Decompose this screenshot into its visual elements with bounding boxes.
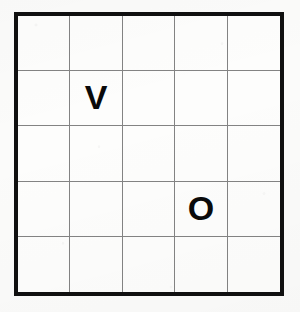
grid-cell-r1c4[interactable] bbox=[175, 16, 227, 71]
grid-cell-r3c4[interactable] bbox=[175, 126, 227, 181]
grid-cell-r3c3[interactable] bbox=[123, 126, 175, 181]
grid-cell-r4c5[interactable] bbox=[228, 182, 280, 237]
grid-cell-r3c2[interactable] bbox=[70, 126, 122, 181]
grid-cell-r1c5[interactable] bbox=[228, 16, 280, 71]
grid-cell-r4c3[interactable] bbox=[123, 182, 175, 237]
grid-cell-r2c1[interactable] bbox=[18, 71, 70, 126]
grid-cell-r5c5[interactable] bbox=[228, 237, 280, 292]
letter-grid[interactable]: VO bbox=[14, 12, 284, 296]
puzzle-canvas: VO bbox=[0, 0, 300, 312]
grid-cell-r5c4[interactable] bbox=[175, 237, 227, 292]
grid-cell-r5c1[interactable] bbox=[18, 237, 70, 292]
cell-letter: V bbox=[85, 80, 108, 114]
grid-cell-r3c1[interactable] bbox=[18, 126, 70, 181]
grid-cell-r1c2[interactable] bbox=[70, 16, 122, 71]
cell-letter: O bbox=[188, 191, 214, 225]
grid-cell-r5c2[interactable] bbox=[70, 237, 122, 292]
grid-cell-r4c4[interactable]: O bbox=[175, 182, 227, 237]
grid-cell-r4c1[interactable] bbox=[18, 182, 70, 237]
grid-cell-r2c4[interactable] bbox=[175, 71, 227, 126]
grid-cell-r1c1[interactable] bbox=[18, 16, 70, 71]
letter-grid-cells: VO bbox=[18, 16, 280, 292]
grid-cell-r1c3[interactable] bbox=[123, 16, 175, 71]
grid-cell-r2c3[interactable] bbox=[123, 71, 175, 126]
grid-cell-r3c5[interactable] bbox=[228, 126, 280, 181]
grid-cell-r4c2[interactable] bbox=[70, 182, 122, 237]
grid-cell-r2c5[interactable] bbox=[228, 71, 280, 126]
grid-cell-r2c2[interactable]: V bbox=[70, 71, 122, 126]
grid-cell-r5c3[interactable] bbox=[123, 237, 175, 292]
